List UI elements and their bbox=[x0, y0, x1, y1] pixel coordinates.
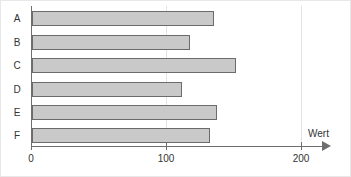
category-label-a: A bbox=[10, 13, 24, 25]
bar-e bbox=[32, 105, 217, 120]
gridline-200 bbox=[301, 6, 302, 146]
category-label-d: D bbox=[10, 84, 24, 96]
x-tick-label-100: 100 bbox=[158, 153, 175, 165]
x-axis-line bbox=[31, 146, 323, 147]
category-label-b: B bbox=[10, 37, 24, 49]
x-tick-100 bbox=[166, 142, 167, 150]
gridline-100 bbox=[166, 6, 167, 146]
bar-chart: 0 100 200 A B C D E F Wert bbox=[0, 0, 351, 177]
x-tick-label-0: 0 bbox=[28, 153, 34, 165]
category-label-c: C bbox=[10, 60, 24, 72]
y-axis-line bbox=[31, 6, 32, 146]
category-label-f: F bbox=[10, 130, 24, 142]
x-tick-0 bbox=[31, 142, 32, 150]
bar-f bbox=[32, 128, 210, 143]
bar-c bbox=[32, 58, 236, 73]
category-label-e: E bbox=[10, 107, 24, 119]
x-tick-200 bbox=[301, 142, 302, 150]
plot-area: 0 100 200 A B C D E F Wert bbox=[0, 0, 351, 177]
bar-a bbox=[32, 11, 214, 26]
x-tick-label-200: 200 bbox=[293, 153, 310, 165]
x-axis-title: Wert bbox=[308, 128, 329, 140]
bar-b bbox=[32, 35, 190, 50]
bar-d bbox=[32, 82, 182, 97]
x-axis-arrow-icon bbox=[322, 141, 331, 151]
